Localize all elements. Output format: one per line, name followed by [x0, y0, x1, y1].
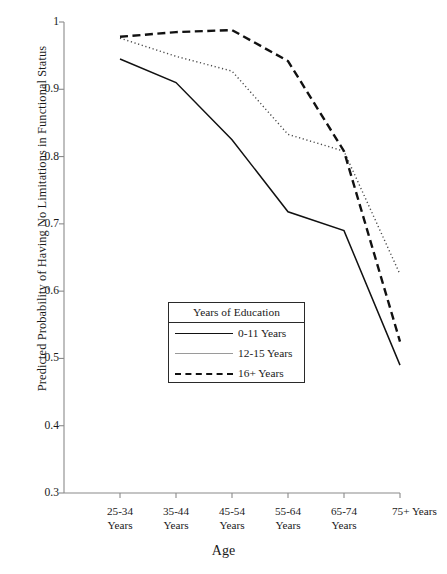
y-tick-label: 1 — [19, 16, 59, 27]
y-tick-label: 0.9 — [19, 83, 59, 94]
x-tick-label: 75+ Years — [392, 505, 447, 519]
x-tick-label-line: Years — [309, 519, 379, 533]
x-tick-label: 65-74Years — [309, 505, 379, 532]
legend-swatch-dashed-icon — [173, 367, 235, 379]
legend-label: 16+ Years — [235, 367, 284, 379]
y-tick-label: 0.5 — [19, 352, 59, 363]
y-tick-label: 0.6 — [19, 285, 59, 296]
series-line-1 — [120, 38, 400, 274]
legend-label: 0-11 Years — [235, 327, 286, 339]
y-tick-marks — [59, 22, 64, 493]
x-axis-title: Age — [0, 543, 447, 559]
functional-status-line-chart: Predicted Probability of Having No Limit… — [0, 0, 447, 574]
plot-area — [0, 0, 447, 574]
y-tick-label: 0.7 — [19, 218, 59, 229]
legend-row[interactable]: 0-11 Years — [169, 323, 304, 343]
axes — [64, 22, 400, 493]
x-tick-marks — [120, 493, 400, 498]
legend-swatch-solid-thin-icon — [173, 347, 235, 359]
legend-title: Years of Education — [169, 303, 304, 323]
legend-label: 12-15 Years — [235, 347, 292, 359]
x-tick-label-line: 65-74 — [309, 505, 379, 519]
y-tick-label: 0.8 — [19, 151, 59, 162]
y-tick-label: 0.4 — [19, 420, 59, 431]
legend-rows: 0-11 Years12-15 Years16+ Years — [169, 323, 304, 383]
legend-swatch-solid-thick-icon — [173, 327, 235, 339]
legend-row[interactable]: 16+ Years — [169, 363, 304, 383]
legend: Years of Education 0-11 Years12-15 Years… — [168, 302, 305, 383]
y-tick-label: 0.3 — [19, 487, 59, 498]
legend-row[interactable]: 12-15 Years — [169, 343, 304, 363]
